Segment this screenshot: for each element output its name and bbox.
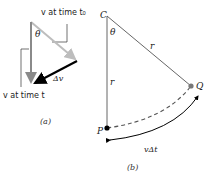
label-v-at-time-t: v at time t: [3, 91, 45, 100]
leader-line-v-t: [21, 49, 29, 87]
label-r-radial: r: [150, 41, 155, 51]
circular-motion-diagram: v at time t₀ v at time t θ Δv (a) C θ r …: [0, 0, 207, 176]
dashed-arc-path: [107, 86, 191, 128]
label-delta-v: Δv: [52, 74, 64, 83]
point-Q: [188, 83, 193, 88]
velocity-vector-t0: [31, 22, 75, 59]
point-P: [104, 125, 109, 130]
label-v-at-time-t0: v at time t₀: [41, 8, 86, 17]
label-theta-b: θ: [110, 27, 116, 37]
label-v-delta-t: vΔt: [144, 145, 158, 154]
part-a-vector-diagram: v at time t₀ v at time t θ Δv (a): [3, 8, 86, 126]
label-Q: Q: [196, 81, 204, 91]
leader-line-v-t0: [52, 24, 67, 42]
caption-a: (a): [40, 117, 51, 126]
label-P: P: [96, 126, 104, 136]
radius-line-cq: [107, 16, 191, 86]
caption-b: (b): [127, 163, 138, 172]
part-b-geometry-diagram: C θ r r P Q vΔt (b): [96, 10, 204, 172]
label-C: C: [100, 10, 107, 20]
label-r-vertical: r: [110, 77, 115, 87]
arc-length-arrow: [110, 96, 198, 140]
label-theta-a: θ: [35, 29, 41, 39]
